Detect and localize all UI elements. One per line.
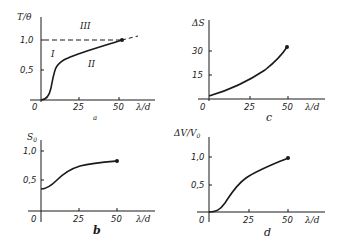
y-axis-label-sub: 0 xyxy=(33,136,37,143)
panel-b: S0 1,0 0,5 0 25 50 λ/d b xyxy=(23,132,155,237)
end-marker xyxy=(285,45,289,49)
figure: T/θ 1,0 0,5 0 25 50 λ/d I II III a ΔS 30… xyxy=(0,0,348,248)
region-label-III: III xyxy=(79,21,91,31)
y-tick-label-0.5: 0,5 xyxy=(23,175,37,185)
x-tick-label-25: 25 xyxy=(73,214,84,224)
y-tick-label-0.5: 0,5 xyxy=(20,65,34,75)
y-tick-label-1.0: 1,0 xyxy=(191,152,205,162)
curve-d xyxy=(209,158,288,212)
y-tick-label-1.0: 1,0 xyxy=(20,35,34,45)
panel-a: T/θ 1,0 0,5 0 25 50 λ/d I II III a xyxy=(17,12,155,122)
x-tick-label-50: 50 xyxy=(282,215,293,225)
x-tick-label-50: 50 xyxy=(113,102,124,112)
x-axis-label: λ/d xyxy=(304,215,320,225)
y-axis-label: ΔV/V0 xyxy=(173,128,201,139)
y-tick-label-30: 30 xyxy=(192,46,203,56)
curve-a-extension xyxy=(122,36,138,40)
y-tick-label-0.5: 0,5 xyxy=(191,180,205,190)
panel-caption-b: b xyxy=(93,224,101,237)
x-tick-label-50: 50 xyxy=(282,102,293,112)
panel-caption-c: c xyxy=(266,111,272,124)
x-tick-label-25: 25 xyxy=(244,102,255,112)
y-axis-label-main: ΔV/V xyxy=(173,128,198,138)
region-label-I: I xyxy=(50,49,55,59)
origin-label: 0 xyxy=(199,215,204,225)
origin-label: 0 xyxy=(31,214,36,224)
x-tick-label-25: 25 xyxy=(73,102,84,112)
x-axis-label: λ/d xyxy=(135,102,151,112)
panel-c: ΔS 30 15 0 25 50 λ/d c xyxy=(191,18,325,124)
region-label-II: II xyxy=(87,59,96,69)
y-axis-label: T/θ xyxy=(17,12,32,22)
y-axis-label: S0 xyxy=(27,132,37,143)
end-marker xyxy=(286,156,290,160)
curve-c xyxy=(209,47,287,96)
panel-caption-d: d xyxy=(264,226,271,239)
x-axis-label: λ/d xyxy=(304,102,320,112)
y-tick-label-15: 15 xyxy=(192,70,203,80)
origin-label: 0 xyxy=(200,102,205,112)
origin-label: 0 xyxy=(32,102,37,112)
x-tick-label-50: 50 xyxy=(111,214,122,224)
y-tick-label-1.0: 1,0 xyxy=(23,146,37,156)
curve-b xyxy=(41,161,117,189)
y-axis-label: ΔS xyxy=(191,18,205,28)
end-marker xyxy=(115,159,119,163)
x-axis-label: λ/d xyxy=(135,214,151,224)
x-tick-label-25: 25 xyxy=(243,215,254,225)
panel-caption-a: a xyxy=(93,114,97,122)
y-axis-label-sub: 0 xyxy=(197,132,201,139)
panel-d: ΔV/V0 1,0 0,5 0 25 50 λ/d d xyxy=(173,128,325,239)
